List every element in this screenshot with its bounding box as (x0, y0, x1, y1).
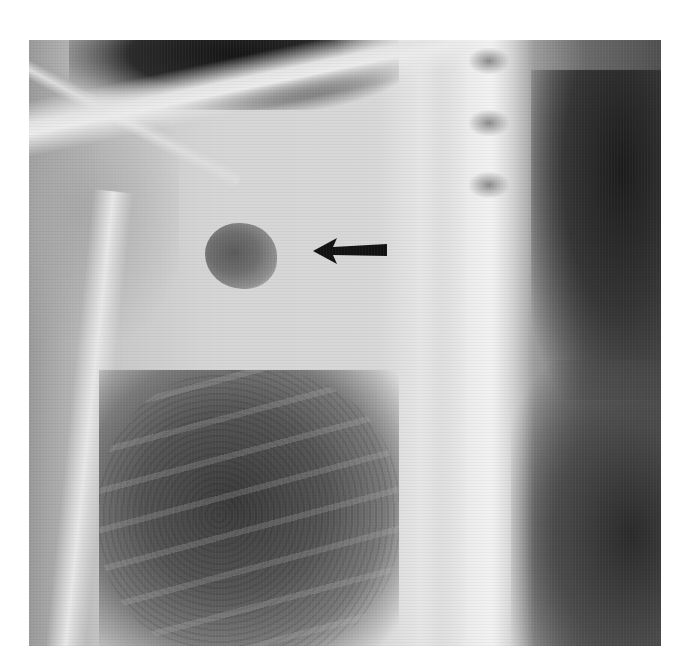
vertebra (469, 48, 509, 74)
right-lung-dark-region (531, 70, 661, 400)
film-grain (29, 40, 661, 646)
right-lower-lung-region (511, 360, 661, 646)
vertebra (469, 172, 509, 198)
chest-wall (45, 189, 134, 646)
rib-shadow (29, 51, 243, 189)
lower-lung-field (99, 370, 399, 646)
apical-dark-region (69, 40, 399, 110)
spine (439, 40, 534, 646)
lung-markings (99, 370, 399, 646)
xray-base (29, 40, 661, 646)
clavicle (29, 40, 484, 164)
chest-xray-image (29, 40, 661, 646)
vertebra (469, 110, 509, 136)
lesion (205, 223, 277, 289)
arrow-left-icon (313, 236, 387, 266)
upper-lung-region (29, 120, 179, 340)
